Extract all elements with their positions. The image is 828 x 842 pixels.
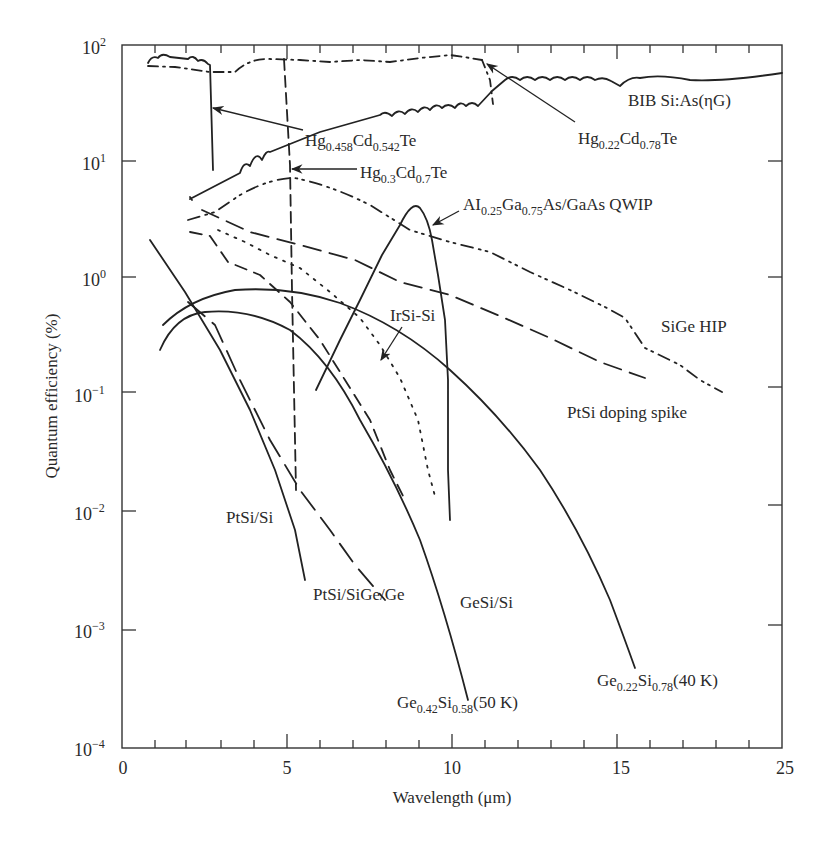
label-ge042si058: Ge0.42Si0.58(50 K): [397, 693, 518, 716]
arrow-hg0458: [213, 108, 303, 130]
svg-text:101: 101: [82, 151, 106, 174]
y-ticks: [122, 161, 782, 630]
label-hg03: Hg0.3Cd0.7Te: [360, 163, 447, 186]
label-hg022: Hg0.22Cd0.78Te: [578, 129, 677, 152]
svg-text:10−4: 10−4: [74, 737, 105, 760]
y-tick-labels: 102 101 100 10−1 10−2 10−3 10−4: [74, 35, 106, 760]
curve-ge022si078: [163, 289, 635, 668]
x-tick-15: 15: [612, 758, 630, 778]
curve-irsi-si: [218, 230, 436, 500]
x-tick-0: 0: [119, 758, 128, 778]
x-tick-10: 10: [443, 758, 461, 778]
label-ptsi-sige-ge: PtSi/SiGe/Ge: [313, 585, 405, 604]
label-bib-si-as: BIB Si:As(ηG): [628, 91, 731, 110]
x-axis-title: Wavelength (μm): [393, 788, 512, 807]
arrow-qwip: [433, 211, 459, 225]
label-gesi-si: GeSi/Si: [460, 593, 513, 612]
y-axis-title: Quantum efficiency (%): [42, 314, 61, 479]
arrow-irsi: [381, 327, 402, 360]
curve-hg03-top: [148, 55, 482, 72]
curve-ge042si058: [160, 311, 468, 700]
quantum-efficiency-chart: 0 5 10 15 25 102 101 100 10−1 10−2 10−3 …: [0, 0, 828, 842]
label-ptsi-si: PtSi/Si: [226, 508, 274, 527]
curve-hg0458: [148, 55, 213, 170]
svg-text:100: 100: [82, 267, 106, 290]
label-irsi-si: IrSi-Si: [390, 306, 436, 325]
curve-hg03-cutoff: [284, 59, 296, 490]
curve-qwip: [316, 206, 450, 520]
svg-text:102: 102: [82, 35, 106, 58]
x-tick-25: 25: [776, 758, 794, 778]
label-qwip: AI0.25Ga0.75As/GaAs QWIP: [463, 195, 653, 218]
label-ptsi-doping: PtSi doping spike: [567, 403, 687, 422]
svg-text:10−1: 10−1: [74, 383, 105, 406]
curve-ptsi-doping: [202, 210, 645, 378]
arrow-hg022: [487, 64, 575, 122]
svg-text:10−3: 10−3: [74, 619, 105, 642]
label-ge022si078: Ge0.22Si0.78(40 K): [597, 671, 718, 694]
label-hg0458: Hg0.458Cd0.542Te: [305, 131, 416, 154]
x-tick-5: 5: [283, 758, 292, 778]
label-sige-hip: SiGe HIP: [661, 317, 727, 336]
svg-text:10−2: 10−2: [74, 501, 105, 524]
